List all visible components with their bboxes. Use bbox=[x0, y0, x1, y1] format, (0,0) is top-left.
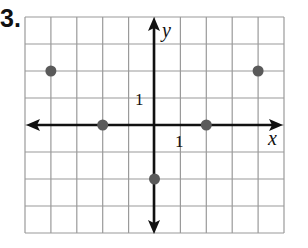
data-point bbox=[45, 66, 56, 77]
x-axis-label: x bbox=[267, 127, 277, 149]
data-point bbox=[253, 66, 264, 77]
data-point bbox=[97, 120, 108, 131]
data-point bbox=[149, 174, 160, 185]
coordinate-plane: y x 1 1 bbox=[0, 0, 308, 248]
data-point bbox=[201, 120, 212, 131]
y-axis-label: y bbox=[160, 19, 171, 42]
y-tick-label: 1 bbox=[135, 90, 144, 109]
x-tick-label: 1 bbox=[175, 132, 184, 151]
